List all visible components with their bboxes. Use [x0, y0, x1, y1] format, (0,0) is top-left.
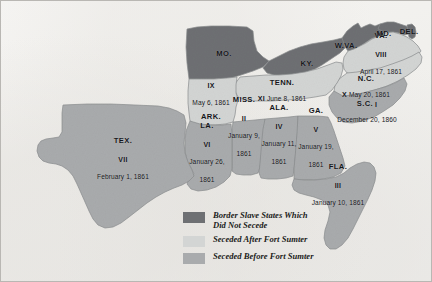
- secession-date-north-carolina: May 20, 1861: [349, 91, 390, 98]
- secession-date-mississippi: January 9, 1861: [228, 132, 260, 156]
- legend-label-after-sumter: Seceded After Fort Sumter: [213, 235, 307, 245]
- order-row-virginia: VIII: [360, 43, 402, 60]
- state-abbr-tennessee: TENN.: [258, 79, 307, 87]
- legend-label-border-slave: Border Slave States Which Did Not Secede: [213, 211, 308, 230]
- state-label-delaware: DEL.: [400, 28, 419, 36]
- state-label-texas: TEX.VIIFebruary 1, 1861: [97, 137, 149, 183]
- secession-order-alabama: IV: [275, 123, 282, 130]
- state-label-florida: FLA.IIIJanuary 10, 1861: [312, 163, 365, 209]
- date-row-florida: January 10, 1861: [312, 192, 365, 209]
- legend-item-border-slave: Border Slave States Which Did Not Secede: [183, 211, 314, 230]
- state-abbr-mississippi: MISS.: [228, 96, 260, 104]
- date-row-texas: February 1, 1861: [97, 166, 149, 183]
- state-label-arkansas: IXMay 6, 1861ARK.: [192, 74, 229, 121]
- legend-label-before-sumter: Seceded Before Fort Sumter: [213, 252, 314, 262]
- state-label-north-carolina: N.C.XMay 20, 1861: [342, 75, 390, 100]
- order-row-texas: VII: [97, 148, 149, 165]
- state-label-georgia: GA.VJanuary 19, 1861: [298, 107, 334, 170]
- date-row-alabama: January 11, 1861: [261, 132, 296, 167]
- state-label-south-carolina: S.C.IDecember 20, 1860: [337, 100, 397, 125]
- state-label-kentucky: KY.: [301, 60, 314, 68]
- state-abbr-alabama: ALA.: [261, 104, 296, 112]
- secession-info-north-carolina: XMay 20, 1861: [342, 83, 390, 100]
- secession-map-figure: MO.KY.W.VA.MD.DEL.VA.VIIIApril 17, 1861N…: [0, 0, 432, 282]
- state-label-tennessee: TENN.XIJune 8, 1861: [258, 79, 307, 104]
- secession-order-texas: VII: [118, 156, 127, 163]
- state-abbr-missouri: MO.: [216, 50, 231, 58]
- state-abbr-delaware: DEL.: [400, 28, 419, 36]
- state-abbr-louisiana: LA.: [189, 122, 225, 130]
- state-label-alabama: ALA.IVJanuary 11, 1861: [261, 104, 296, 167]
- order-row-georgia: V: [298, 118, 334, 135]
- secession-order-south-carolina: I: [375, 101, 377, 109]
- order-row-alabama: IV: [261, 115, 296, 132]
- state-label-missouri: MO.: [216, 50, 231, 58]
- secession-date-louisiana: January 26, 1861: [189, 158, 225, 182]
- secession-order-georgia: V: [314, 126, 319, 133]
- order-row-florida: III: [312, 174, 365, 191]
- state-label-virginia: VA.VIIIApril 17, 1861: [360, 32, 402, 78]
- secession-date-south-carolina: December 20, 1860: [337, 116, 397, 123]
- state-abbr-virginia: VA.: [360, 32, 402, 40]
- secession-order-arkansas: IX: [207, 82, 214, 89]
- state-abbr-north-carolina: N.C.: [342, 75, 390, 83]
- state-label-louisiana: LA.VIJanuary 26, 1861: [189, 122, 225, 185]
- legend-swatch-after-sumter: [183, 236, 205, 247]
- legend-item-after-sumter: Seceded After Fort Sumter: [183, 235, 314, 247]
- secession-order-north-carolina: X: [342, 91, 347, 98]
- state-abbr-georgia: GA.: [298, 107, 334, 115]
- secession-order-louisiana: VI: [203, 141, 210, 148]
- abbr-order-row-south-carolina: S.C.I: [337, 100, 397, 108]
- date-row-arkansas: May 6, 1861: [192, 91, 229, 108]
- secession-order-mississippi: II: [242, 115, 247, 122]
- legend-item-before-sumter: Seceded Before Fort Sumter: [183, 252, 314, 264]
- legend-swatch-before-sumter: [183, 253, 205, 264]
- state-abbr-west-virginia: W.VA.: [335, 42, 358, 50]
- secession-order-virginia: VIII: [375, 51, 387, 58]
- state-abbr-texas: TEX.: [97, 137, 149, 145]
- secession-date-tennessee: June 8, 1861: [267, 95, 306, 102]
- state-label-mississippi: MISS.IIJanuary 9, 1861: [228, 96, 260, 159]
- order-row-mississippi: II: [228, 107, 260, 124]
- state-abbr-florida: FLA.: [312, 163, 365, 171]
- secession-order-florida: III: [335, 182, 342, 189]
- secession-date-texas: February 1, 1861: [97, 174, 149, 181]
- order-row-louisiana: VI: [189, 133, 225, 150]
- map-legend: Border Slave States Which Did Not Secede…: [183, 211, 314, 269]
- secession-date-alabama: January 11, 1861: [261, 140, 296, 164]
- state-abbr-south-carolina: S.C.: [357, 100, 373, 108]
- date-row-louisiana: January 26, 1861: [189, 150, 225, 185]
- legend-swatch-border-slave: [183, 212, 205, 223]
- date-row-mississippi: January 9, 1861: [228, 124, 260, 159]
- order-row-arkansas: IX: [192, 74, 229, 91]
- secession-date-arkansas: May 6, 1861: [192, 99, 229, 106]
- state-label-west-virginia: W.VA.: [335, 42, 358, 50]
- secession-date-florida: January 10, 1861: [312, 200, 365, 207]
- state-abbr-kentucky: KY.: [301, 60, 314, 68]
- date-row-south-carolina: December 20, 1860: [337, 108, 397, 125]
- state-abbr-arkansas: ARK.: [192, 112, 229, 120]
